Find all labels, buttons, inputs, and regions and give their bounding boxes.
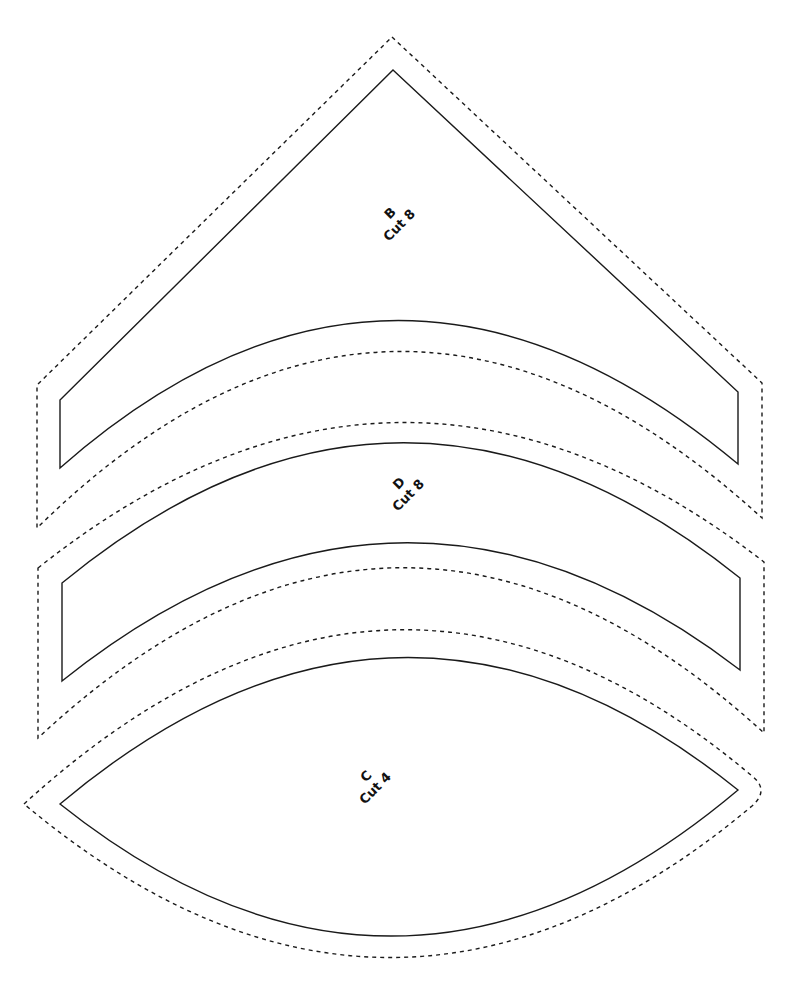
piece-c-label: C Cut 4 xyxy=(346,759,395,808)
pattern-sheet: B Cut 8 D Cut 8 C Cut 4 xyxy=(0,0,786,982)
piece-b-label: B Cut 8 xyxy=(370,196,419,245)
pattern-piece-c: C Cut 4 xyxy=(24,630,761,958)
piece-c-cut-line xyxy=(60,657,738,936)
piece-c-seam-allowance xyxy=(24,630,761,958)
pattern-piece-d: D Cut 8 xyxy=(38,422,764,738)
pattern-piece-b: B Cut 8 xyxy=(37,37,762,528)
piece-b-seam-allowance xyxy=(37,37,762,528)
piece-d-seam-allowance xyxy=(38,422,764,738)
piece-b-cut-line xyxy=(60,70,738,468)
piece-d-label: D Cut 8 xyxy=(379,466,428,515)
